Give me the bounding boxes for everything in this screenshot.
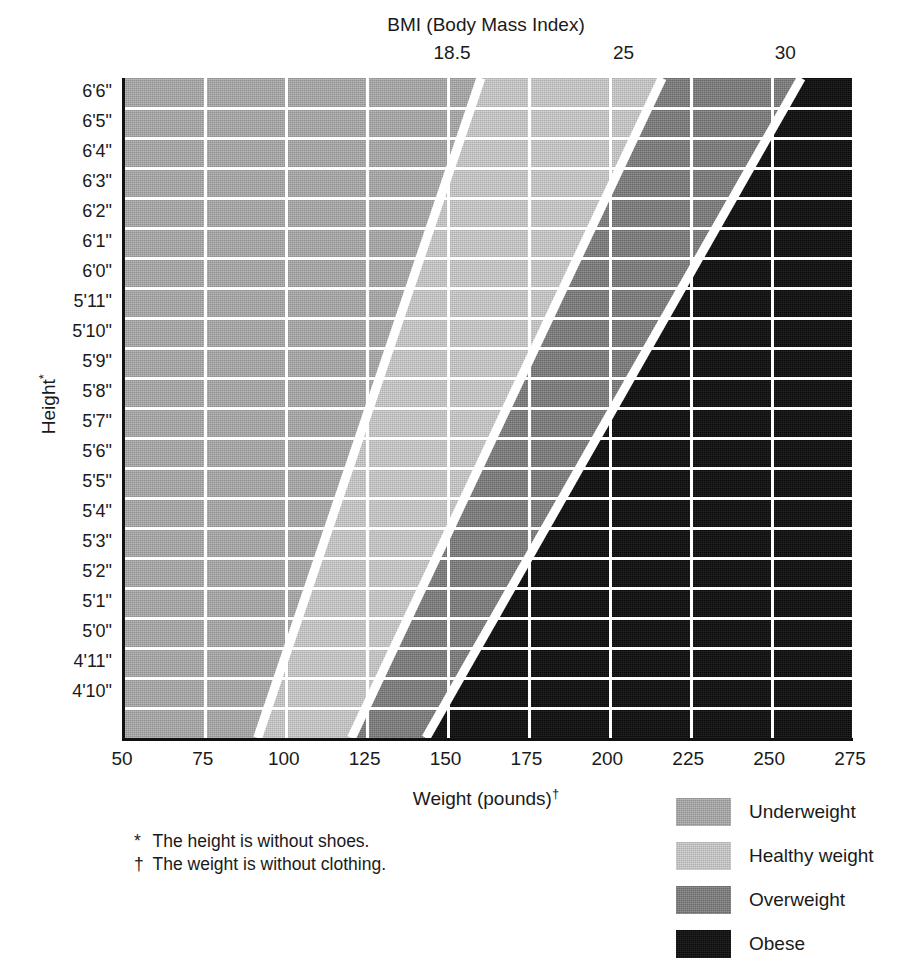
y-tick-65in: 5'5" xyxy=(0,471,112,492)
y-tick-63in: 5'3" xyxy=(0,531,112,552)
x-tick-100: 100 xyxy=(268,748,300,770)
y-tick-62in: 5'2" xyxy=(0,561,112,582)
y-tick-58in: 4'10" xyxy=(0,681,112,702)
y-tick-60in: 5'0" xyxy=(0,621,112,642)
footnote-mark: † xyxy=(134,853,148,876)
y-tick-71in: 5'11" xyxy=(0,291,112,312)
footnote-text: The height is without shoes. xyxy=(148,831,369,851)
x-tick-275: 275 xyxy=(834,748,866,770)
y-tick-72in: 6'0" xyxy=(0,261,112,282)
legend-item: Healthy weight xyxy=(676,834,912,878)
y-tick-76in: 6'4" xyxy=(0,141,112,162)
legend-item: Obese xyxy=(676,922,912,966)
x-axis-title-text: Weight (pounds) xyxy=(413,788,552,809)
y-tick-59in: 4'11" xyxy=(0,651,112,672)
bmi-tick-18-5: 18.5 xyxy=(434,42,471,64)
footnote-row: † The weight is without clothing. xyxy=(134,853,386,876)
bmi-tick-30: 30 xyxy=(775,42,796,64)
x-tick-75: 75 xyxy=(192,748,213,770)
x-axis-title: Weight (pounds)† xyxy=(413,786,559,810)
footnotes: * The height is without shoes.† The weig… xyxy=(134,830,386,876)
footnote-mark: * xyxy=(134,830,148,853)
y-axis-ticks: 6'6"6'5"6'4"6'3"6'2"6'1"6'0"5'11"5'10"5'… xyxy=(0,0,112,973)
x-tick-150: 150 xyxy=(430,748,462,770)
legend-label: Overweight xyxy=(749,889,845,911)
y-axis-title: Height* xyxy=(36,344,60,464)
x-tick-50: 50 xyxy=(111,748,132,770)
x-tick-125: 125 xyxy=(349,748,381,770)
bmi-tick-25: 25 xyxy=(613,42,634,64)
legend: UnderweightHealthy weightOverweightObese xyxy=(676,790,912,966)
chart-plot-area xyxy=(122,78,853,741)
footnote-text: The weight is without clothing. xyxy=(148,854,386,874)
legend-swatch xyxy=(676,798,731,826)
y-tick-78in: 6'6" xyxy=(0,81,112,102)
legend-item: Overweight xyxy=(676,878,912,922)
y-tick-73in: 6'1" xyxy=(0,231,112,252)
x-tick-200: 200 xyxy=(591,748,623,770)
footnote-row: * The height is without shoes. xyxy=(134,830,386,853)
x-axis-title-footnote-mark: † xyxy=(552,786,559,801)
legend-swatch xyxy=(676,842,731,870)
page-title: BMI (Body Mass Index) xyxy=(387,14,584,36)
y-tick-64in: 5'4" xyxy=(0,501,112,522)
x-tick-175: 175 xyxy=(511,748,543,770)
y-tick-70in: 5'10" xyxy=(0,321,112,342)
legend-swatch xyxy=(676,930,731,958)
y-tick-74in: 6'2" xyxy=(0,201,112,222)
y-tick-61in: 5'1" xyxy=(0,591,112,612)
legend-swatch xyxy=(676,886,731,914)
x-tick-250: 250 xyxy=(753,748,785,770)
legend-label: Underweight xyxy=(749,801,856,823)
legend-label: Healthy weight xyxy=(749,845,874,867)
y-tick-77in: 6'5" xyxy=(0,111,112,132)
x-tick-225: 225 xyxy=(672,748,704,770)
y-axis-title-text: Height xyxy=(38,379,59,434)
legend-item: Underweight xyxy=(676,790,912,834)
y-tick-75in: 6'3" xyxy=(0,171,112,192)
y-axis-title-footnote-mark: * xyxy=(36,374,51,379)
legend-label: Obese xyxy=(749,933,805,955)
